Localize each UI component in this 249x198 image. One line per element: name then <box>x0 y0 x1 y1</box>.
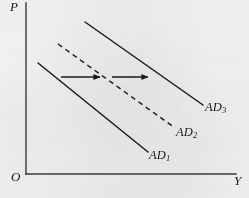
y-axis-label: P <box>10 0 18 13</box>
aggregate-demand-diagram: P Y O AD1 AD2 AD3 <box>0 0 249 198</box>
curve-label-ad2-subscript: 2 <box>193 130 197 140</box>
curve-label-ad3: AD3 <box>205 101 226 114</box>
plot-canvas <box>0 0 249 198</box>
origin-label: O <box>11 170 20 183</box>
curve-ad2 <box>58 44 175 128</box>
x-axis-label: Y <box>234 174 241 187</box>
curve-ad3 <box>85 22 203 105</box>
curve-label-ad2-text: AD <box>176 125 193 139</box>
curve-label-ad2: AD2 <box>176 126 197 139</box>
curve-label-ad3-text: AD <box>205 100 222 114</box>
curve-label-ad1: AD1 <box>149 149 170 162</box>
curve-label-ad1-text: AD <box>149 148 166 162</box>
curve-label-ad3-subscript: 3 <box>222 105 226 115</box>
curve-label-ad1-subscript: 1 <box>166 153 170 163</box>
